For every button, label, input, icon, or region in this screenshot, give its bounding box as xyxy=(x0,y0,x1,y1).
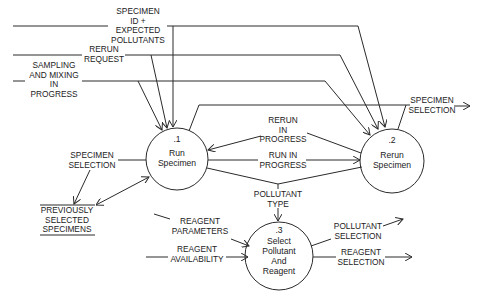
flow-label-specimen-selection-left: SPECIMEN SELECTION xyxy=(65,151,119,170)
flow-label-specimen-selection-out: SPECIMEN SELECTION xyxy=(408,96,456,115)
process-3-name: Select Pollutant And Reagent xyxy=(249,236,309,276)
flow-label-rerun-in-progress: RERUN IN PROGRESS xyxy=(258,116,308,145)
process-1-number: .1 xyxy=(152,134,202,144)
flow-label-sampling-mixing: SAMPLING AND MIXING IN PROGRESS xyxy=(25,61,83,99)
process-2-number: .2 xyxy=(367,135,417,145)
flow-label-pollutant-type: POLLUTANT TYPE xyxy=(250,190,306,209)
data-store-previously-selected-specimens: PREVIOUSLY SELECTED SPECIMENS xyxy=(38,206,96,235)
flow-label-reagent-availability: REAGENT AVAILABILITY xyxy=(166,245,228,264)
flow-label-reagent-selection: REAGENT SELECTION xyxy=(335,248,387,267)
flow-label-pollutant-selection: POLLUTANT SELECTION xyxy=(330,222,386,241)
flow-label-run-in-progress: RUN IN PROGRESS xyxy=(258,151,308,170)
flow-label-reagent-parameters: REAGENT PARAMETERS xyxy=(168,217,232,236)
flow-label-rerun-request: RERUN REQUEST xyxy=(82,45,126,64)
process-1-name: Run Specimen xyxy=(152,148,202,168)
flow-label-specimen-id: SPECIMEN ID + EXPECTED POLLUTANTS xyxy=(108,7,168,45)
process-3-number: .3 xyxy=(249,225,309,235)
process-2-name: Rerun Specimen xyxy=(367,150,417,170)
data-flow-diagram: .1 Run Specimen .2 Rerun Specimen .3 Sel… xyxy=(0,0,484,303)
